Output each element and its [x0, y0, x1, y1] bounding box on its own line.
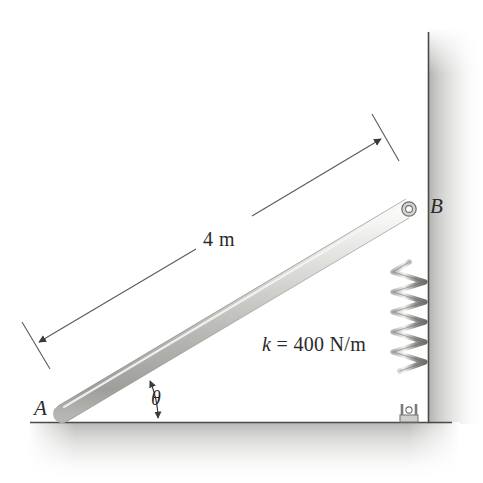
- wall-group: [428, 28, 483, 424]
- stiffness-symbol: k: [262, 333, 271, 355]
- dimension-line-lower: [39, 249, 196, 342]
- label-rod-length: 4 m: [203, 228, 235, 251]
- stiffness-equals: =: [271, 333, 293, 355]
- dimension-extension-tick-b: [372, 114, 399, 161]
- rod-outline-bottom: [66, 218, 409, 422]
- mechanics-figure: A B θ 4 m k = 400 N/m: [0, 0, 483, 483]
- dimension-extension-tick-a: [22, 322, 50, 369]
- stiffness-value: 400 N/m: [293, 333, 366, 355]
- label-point-b: B: [430, 194, 443, 219]
- ground-shading-edge-fade: [28, 422, 460, 480]
- spring-group: [393, 214, 425, 422]
- label-point-a: A: [34, 396, 47, 421]
- dimension-line-upper: [252, 139, 381, 216]
- wall-shading: [428, 28, 483, 424]
- label-angle-theta: θ: [151, 387, 161, 410]
- label-spring-stiffness: k = 400 N/m: [262, 333, 366, 356]
- figure-canvas: [0, 0, 483, 483]
- spring-ground-anchor: [400, 404, 418, 422]
- wall-shading-top-fade: [428, 28, 483, 74]
- ground-group: [28, 422, 460, 480]
- pin-joint-b-bore: [406, 206, 413, 213]
